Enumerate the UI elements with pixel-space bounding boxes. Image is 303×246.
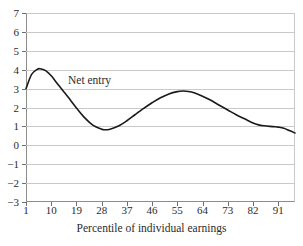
x-tick-label-1: 1 [23, 205, 29, 216]
x-tick-label-73: 73 [222, 205, 233, 216]
x-tick-label-82: 82 [247, 205, 258, 216]
x-tick-mark-91 [278, 202, 279, 206]
y-tick-label--3: −3 [7, 197, 19, 208]
chart-figure: −3−2−101234567 110192837465564738291 Per… [0, 0, 303, 246]
x-tick-mark-37 [127, 202, 128, 206]
x-tick-mark-64 [203, 202, 204, 206]
x-tick-mark-82 [253, 202, 254, 206]
x-tick-label-10: 10 [46, 205, 57, 216]
y-tick-label-5: 5 [14, 45, 20, 56]
y-tick-label-4: 4 [14, 64, 20, 75]
x-tick-mark-73 [228, 202, 229, 206]
x-tick-mark-55 [177, 202, 178, 206]
x-tick-label-37: 37 [121, 205, 132, 216]
y-tick-label-1: 1 [14, 121, 20, 132]
series-curve-net-entry [26, 13, 295, 202]
y-tick-label-0: 0 [14, 140, 20, 151]
plot-area [26, 13, 295, 202]
x-tick-mark-10 [51, 202, 52, 206]
y-tick-mark--3 [22, 202, 26, 203]
x-tick-label-55: 55 [172, 205, 183, 216]
x-tick-mark-46 [152, 202, 153, 206]
x-tick-mark-28 [102, 202, 103, 206]
x-tick-label-28: 28 [96, 205, 107, 216]
x-axis-title: Percentile of individual earnings [0, 222, 303, 235]
y-tick-label-3: 3 [14, 83, 20, 94]
x-tick-mark-1 [26, 202, 27, 206]
y-tick-label-7: 7 [14, 8, 20, 19]
y-tick-label-2: 2 [14, 102, 20, 113]
x-tick-label-91: 91 [273, 205, 284, 216]
x-tick-mark-19 [76, 202, 77, 206]
y-tick-label--1: −1 [7, 159, 19, 170]
y-tick-label-6: 6 [14, 26, 20, 37]
series-path [26, 69, 295, 133]
x-tick-label-19: 19 [71, 205, 82, 216]
x-tick-label-64: 64 [197, 205, 208, 216]
x-tick-label-46: 46 [147, 205, 158, 216]
series-annotation-net-entry: Net entry [68, 74, 111, 86]
y-axis: −3−2−101234567 [0, 0, 26, 246]
y-tick-label--2: −2 [7, 178, 19, 189]
